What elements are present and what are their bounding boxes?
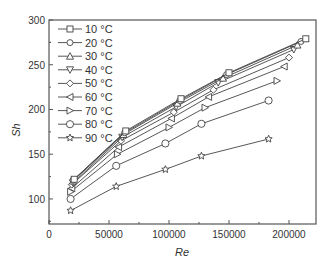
- square-marker-icon: [123, 128, 129, 134]
- hexagon-marker-icon: [162, 140, 169, 147]
- legend-label: 90 °C: [85, 132, 113, 144]
- legend-item: 20 °C: [58, 37, 113, 49]
- legend-label: 10 °C: [85, 23, 113, 35]
- triangle-right-marker-icon: [114, 151, 121, 158]
- star-marker-icon: [113, 183, 120, 190]
- series-line: [71, 139, 269, 211]
- x-tick-label: 100000: [152, 229, 186, 240]
- hexagon-marker-icon: [113, 162, 120, 169]
- hexagon-marker-icon: [66, 121, 73, 128]
- star-marker-icon: [265, 135, 272, 142]
- legend-item: 40 °C: [58, 64, 113, 76]
- x-axis-label: Re: [175, 246, 189, 258]
- legend-label: 30 °C: [85, 50, 113, 62]
- y-tick-label: 150: [28, 149, 45, 160]
- star-marker-icon: [198, 152, 205, 159]
- x-tick-label: 150000: [212, 229, 246, 240]
- y-tick-label: 100: [28, 194, 45, 205]
- triangle-left-marker-icon: [205, 93, 212, 100]
- triangle-left-marker-icon: [67, 94, 74, 101]
- hexagon-marker-icon: [198, 120, 205, 127]
- square-marker-icon: [71, 176, 77, 182]
- hexagon-marker-icon: [67, 195, 74, 202]
- y-tick-label: 300: [28, 15, 45, 26]
- x-tick-label: 50000: [95, 229, 123, 240]
- chart: 050000100000150000200000100150200250300 …: [0, 0, 332, 264]
- legend-label: 50 °C: [85, 77, 113, 89]
- diamond-marker-icon: [210, 86, 217, 93]
- square-marker-icon: [178, 96, 184, 102]
- y-tick-label: 200: [28, 104, 45, 115]
- square-marker-icon: [67, 26, 73, 32]
- triangle-left-marker-icon: [168, 115, 175, 122]
- legend-item: 60 °C: [58, 91, 113, 103]
- legend-item: 50 °C: [58, 77, 113, 89]
- x-tick-label: 200000: [272, 229, 306, 240]
- square-marker-icon: [303, 36, 309, 42]
- legend-label: 80 °C: [85, 118, 113, 130]
- circle-marker-icon: [67, 40, 73, 46]
- legend-label: 20 °C: [85, 37, 113, 49]
- triangle-right-marker-icon: [274, 77, 281, 84]
- diamond-marker-icon: [67, 80, 74, 87]
- x-tick-label: 0: [46, 229, 52, 240]
- series-90c: [67, 135, 272, 213]
- hexagon-marker-icon: [265, 97, 272, 104]
- legend-label: 70 °C: [85, 105, 113, 117]
- legend-item: 90 °C: [58, 132, 113, 144]
- square-marker-icon: [226, 70, 232, 76]
- triangle-right-marker-icon: [202, 104, 209, 111]
- legend-label: 60 °C: [85, 91, 113, 103]
- legend-item: 30 °C: [58, 50, 113, 62]
- y-tick-label: 250: [28, 60, 45, 71]
- legend-item: 70 °C: [58, 105, 113, 117]
- star-marker-icon: [162, 166, 169, 173]
- y-axis-label: Sh: [10, 123, 22, 136]
- legend-item: 10 °C: [58, 23, 113, 35]
- legend-item: 80 °C: [58, 118, 113, 130]
- triangle-right-marker-icon: [67, 107, 74, 114]
- diamond-marker-icon: [286, 54, 293, 61]
- triangle-right-marker-icon: [166, 124, 173, 131]
- star-marker-icon: [67, 207, 74, 214]
- legend: 10 °C20 °C30 °C40 °C50 °C60 °C70 °C80 °C…: [58, 23, 113, 144]
- star-marker-icon: [66, 134, 73, 141]
- legend-label: 40 °C: [85, 64, 113, 76]
- triangle-left-marker-icon: [281, 63, 288, 70]
